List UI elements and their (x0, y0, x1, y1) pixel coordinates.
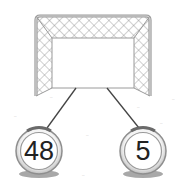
svg-text:ᵥᵥ: ᵥᵥ (159, 120, 163, 125)
svg-text:ᵥᵥ: ᵥᵥ (171, 96, 175, 101)
svg-text:ᵥᵥ: ᵥᵥ (81, 172, 85, 177)
right-ball-value: 5 (123, 138, 163, 165)
left-ball-value: 48 (19, 138, 59, 165)
svg-text:ᵥᵥ: ᵥᵥ (49, 94, 53, 99)
goal-icon (36, 16, 150, 96)
number-bond-diagram: ᵥᵥ ᵥᵥ ᵥᵥ ᵥᵥ ᵥᵥ ᵥᵥ ᵥᵥ (0, 0, 196, 190)
bond-line-right (107, 88, 139, 128)
svg-text:ᵥᵥ: ᵥᵥ (85, 132, 89, 137)
svg-text:ᵥᵥ: ᵥᵥ (13, 113, 17, 118)
svg-text:ᵥᵥ: ᵥᵥ (136, 104, 140, 109)
